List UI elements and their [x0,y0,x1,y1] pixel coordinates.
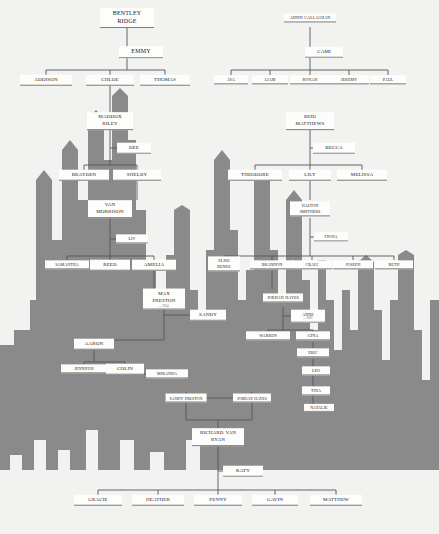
person-name-label: Paul [383,76,394,82]
person-node-liam[interactable]: Liam [252,75,288,84]
person-name-label: Elise Renee [217,257,231,269]
person-node-natalie[interactable]: Natalie [304,404,334,412]
person-name-label: Cami [317,47,331,55]
person-name-label: Gina [308,332,318,338]
person-node-warren[interactable]: Warren [246,331,290,340]
person-node-max-preston[interactable]: Max Prestonb. 1954 [143,289,185,310]
person-node-gavin[interactable]: Gavin [252,495,298,506]
person-name-label: Joseph [346,261,361,267]
person-node-heather[interactable]: Heather [132,495,184,506]
person-name-label: Ronan [303,76,318,82]
person-name-label: Becca [325,143,342,151]
person-node-chloe[interactable]: Chloe [86,75,134,86]
person-node-richard-van-ryan[interactable]: Richard Van Ryan [192,428,244,446]
person-node-bentley-ridge[interactable]: Bentley Ridge [100,8,154,28]
person-subscript-label: b. 1954 [146,304,182,307]
person-name-label: Bentley Ridge [113,8,142,25]
person-node-paul[interactable]: Paul [370,75,406,84]
person-node-jeremy[interactable]: Jeremy [329,75,369,84]
person-name-label: Jeremy [341,76,357,82]
person-name-label: Van Morrison [96,200,124,215]
person-name-label: Brayden [72,170,97,178]
person-name-label: Max Preston [152,289,175,304]
person-node-ronan[interactable]: Ronan [290,75,330,84]
person-name-label: Emmy [131,46,150,55]
person-name-label: Thomas [154,75,176,83]
person-node-addison[interactable]: Addison [20,75,72,86]
person-name-label: Miranda [157,370,177,376]
person-node-shelby[interactable]: Shelby [113,170,161,181]
person-name-label: Tina [311,387,321,393]
person-node-melissa[interactable]: Melissa [337,170,387,181]
person-node-maddox-riley[interactable]: Maddox Riley [87,112,133,130]
person-node-reid-matthews[interactable]: Reid Matthews [286,112,334,130]
person-node-joseph[interactable]: Joseph [333,260,373,269]
person-node-reed[interactable]: Reed [90,260,130,271]
person-name-label: Amelia [144,260,164,268]
person-name-label: Dee [129,143,139,151]
person-node-katy[interactable]: Katy [223,466,263,477]
person-name-label: Reid Matthews [296,112,325,127]
person-node-van-morrison[interactable]: Van Morrison [88,200,132,218]
person-name-label: Shelby [127,170,147,178]
person-node-elise-renee[interactable]: Elise Renee [208,256,240,271]
person-name-label: Jordan Hayes [267,294,299,300]
person-node-thomas[interactable]: Thomas [140,75,190,86]
person-subscript-label: b. 1961 [294,317,322,320]
person-name-label: Sandy [199,310,217,318]
person-name-label: Gavin [267,495,283,503]
person-name-label: Reed [103,260,117,268]
person-node-lily[interactable]: Lily [289,170,331,181]
person-node-brayden[interactable]: Brayden [59,170,109,181]
person-node-jennifer[interactable]: Jennifer [61,364,107,373]
person-node-halton-smithers[interactable]: Halton Smithers [290,201,330,216]
person-node-leo[interactable]: Leo [302,366,330,375]
person-node-brandon[interactable]: Brandon [250,260,294,269]
person-node-dee[interactable]: Dee [117,143,151,154]
person-name-label: Beth [389,261,400,267]
person-node-samantha[interactable]: Samantha [45,260,89,269]
person-name-label: Addison [34,75,58,83]
person-node-beth[interactable]: Beth [375,260,413,269]
person-node-penny[interactable]: Penny [194,495,242,506]
person-node-cami[interactable]: Cami [305,47,343,58]
person-node-liv[interactable]: Liv [116,234,148,243]
person-node-sandy[interactable]: Sandy [190,310,226,321]
person-node-craig[interactable]: Craig [292,260,332,269]
person-name-label: Brandon [262,261,283,267]
person-node-theodore[interactable]: Theodore [228,170,282,181]
person-name-label: Samantha [55,261,79,267]
person-name-label: Lily [304,170,315,178]
person-node-becca[interactable]: Becca [313,143,355,154]
pair-label-jordan-hayes-1[interactable]: Jordan Hayes [233,394,271,403]
person-node-eric[interactable]: Eric [297,348,329,357]
family-tree-diagram: Bentley RidgeEmmyAddisonChloeThomasAiden… [0,0,439,534]
person-node-ava[interactable]: Ava [214,75,248,84]
person-node-anne[interactable]: Anneb. 1961 [291,310,325,323]
person-name-label: Gracie [88,495,107,503]
person-node-emmy[interactable]: Emmy [119,46,163,58]
person-name-label: Maddox Riley [98,112,121,127]
person-node-amelia[interactable]: Amelia [132,260,176,271]
person-node-aaron[interactable]: Aaron [74,339,114,350]
person-node-jordan-hayes-2[interactable]: Jordan Hayes [263,293,303,302]
person-name-label: Penny [209,495,226,503]
person-name-label: Jennifer [74,365,93,371]
person-name-label: Ava [227,76,235,82]
person-name-label: Fiona [325,233,338,239]
pair-label-sandy-preston[interactable]: Sandy Preston [166,394,207,403]
person-name-label: Liam [265,76,276,82]
person-name-label: Matthew [323,495,349,503]
person-node-gracie[interactable]: Gracie [74,495,122,506]
person-node-colin[interactable]: Colin [106,364,144,375]
person-name-label: Theodore [241,170,269,178]
person-name-label: Liv [128,235,135,241]
person-node-aiden-callaghan[interactable]: Aiden Callaghan [284,13,336,22]
person-node-tina[interactable]: Tina [302,386,330,395]
person-node-miranda[interactable]: Miranda [146,369,188,378]
person-name-label: Aaron [85,339,104,347]
person-node-matthew[interactable]: Matthew [310,495,362,506]
person-node-fiona[interactable]: Fiona [314,232,348,241]
person-node-gina[interactable]: Gina [296,331,330,340]
person-name-label: Melissa [351,170,373,178]
